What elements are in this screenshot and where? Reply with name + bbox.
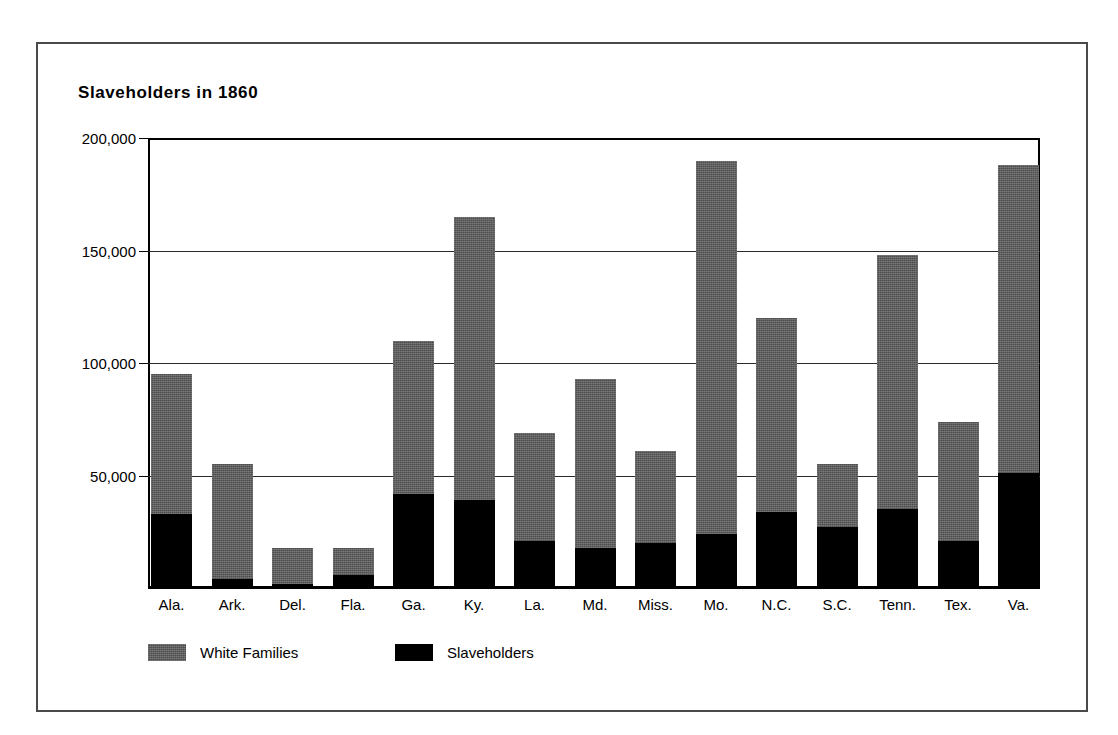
bar-segment-slaveholders[interactable] [938,541,979,588]
bar-group[interactable] [696,161,737,589]
bar-group[interactable] [151,374,192,588]
bar-segment-slaveholders[interactable] [998,473,1039,588]
legend-label: Slaveholders [447,644,534,661]
bar-segment-white-families[interactable] [212,464,253,588]
bar-group[interactable] [998,165,1039,588]
y-axis-tick-label: 50,000 [90,467,136,484]
bar-segment-slaveholders[interactable] [575,548,616,589]
bar-segment-white-families[interactable] [696,161,737,589]
y-axis-tick-label: 100,000 [82,355,136,372]
y-axis-tick [139,138,148,139]
plot-area [148,138,1040,588]
bar-group[interactable] [514,433,555,588]
chart-title: Slaveholders in 1860 [78,83,258,103]
bar-group[interactable] [272,548,313,589]
x-axis-tick-label: Miss. [625,596,686,613]
x-axis-tick-label: Ky. [444,596,505,613]
bar-segment-slaveholders[interactable] [393,494,434,589]
x-axis-tick-label: Fla. [323,596,384,613]
x-axis-tick-label: Tenn. [867,596,928,613]
bar-group[interactable] [393,341,434,589]
bar-segment-slaveholders[interactable] [514,541,555,588]
y-axis-tick [139,251,148,252]
bar-segment-slaveholders[interactable] [151,514,192,588]
legend-swatch-black-icon [395,644,433,661]
gridline [148,251,1040,252]
bar-group[interactable] [635,451,676,588]
bar-segment-white-families[interactable] [272,548,313,589]
bar-segment-slaveholders[interactable] [817,527,858,588]
bar-group[interactable] [938,422,979,589]
bar-group[interactable] [333,548,374,589]
bar-group[interactable] [756,318,797,588]
x-axis-tick-label: Va. [988,596,1049,613]
x-axis-tick-label: La. [504,596,565,613]
bar-segment-slaveholders[interactable] [333,575,374,589]
legend-entry[interactable]: White Families [148,644,298,661]
bar-segment-slaveholders[interactable] [756,512,797,589]
x-axis-labels: Ala.Ark.Del.Fla.Ga.Ky.La.Md.Miss.Mo.N.C.… [148,596,1040,624]
bar-group[interactable] [212,464,253,588]
x-axis-tick-label: Md. [565,596,626,613]
x-axis-tick-label: Ala. [141,596,202,613]
y-axis-tick [139,476,148,477]
y-axis-tick [139,363,148,364]
bar-segment-slaveholders[interactable] [696,534,737,588]
x-axis-tick-label: S.C. [807,596,868,613]
x-axis-tick-label: Ark. [202,596,263,613]
y-axis-tick-label: 150,000 [82,242,136,259]
plot-border-top [148,138,1040,140]
bar-segment-slaveholders[interactable] [877,509,918,588]
bar-group[interactable] [817,464,858,588]
y-axis-labels: 200,000150,000100,00050,000 [48,138,136,588]
bar-segment-slaveholders[interactable] [212,579,253,588]
bar-group[interactable] [454,217,495,588]
legend-swatch-gray-icon [148,644,186,661]
bar-segment-slaveholders[interactable] [272,584,313,589]
x-axis-tick-label: Del. [262,596,323,613]
bar-group[interactable] [575,379,616,588]
bar-segment-slaveholders[interactable] [635,543,676,588]
bar-group[interactable] [877,255,918,588]
y-axis-tick-label: 200,000 [82,130,136,147]
x-axis-tick-label: Tex. [928,596,989,613]
x-axis-tick-label: N.C. [746,596,807,613]
x-axis-tick-label: Mo. [686,596,747,613]
legend-entry[interactable]: Slaveholders [395,644,534,661]
bar-segment-slaveholders[interactable] [454,500,495,588]
legend-label: White Families [200,644,298,661]
x-axis-tick-label: Ga. [383,596,444,613]
